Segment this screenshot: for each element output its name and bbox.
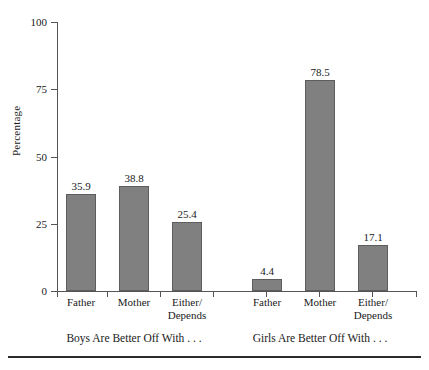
bar-boys-father <box>66 194 96 291</box>
x-label-line2: Depends <box>157 309 217 322</box>
x-label-line1: Father <box>67 296 95 308</box>
bar-value-boys-mother: 38.8 <box>109 172 159 184</box>
y-axis-line <box>57 22 58 292</box>
bar-value-boys-father: 35.9 <box>56 180 106 192</box>
y-tick-label-25: 25 <box>7 219 47 230</box>
y-tick-label-50: 50 <box>7 152 47 163</box>
x-axis-line <box>57 291 417 292</box>
bar-boys-either-depends <box>172 222 202 291</box>
x-label-line1: Either/ <box>172 296 202 308</box>
x-label-girls-father: Father <box>237 296 297 309</box>
x-label-line2: Depends <box>343 309 403 322</box>
x-tick-7 <box>416 292 417 297</box>
x-label-line1: Mother <box>118 296 150 308</box>
bar-girls-mother <box>305 80 335 291</box>
group-caption-boys: Boys Are Better Off With . . . <box>34 331 234 345</box>
x-label-boys-father: Father <box>51 296 111 309</box>
x-label-boys-mother: Mother <box>104 296 164 309</box>
bar-value-girls-either-depends: 17.1 <box>348 231 398 243</box>
y-tick-25 <box>51 224 57 225</box>
x-label-girls-either-depends: Either/ Depends <box>343 296 403 322</box>
y-tick-label-75: 75 <box>7 84 47 95</box>
bottom-divider <box>8 356 421 358</box>
x-label-line1: Father <box>253 296 281 308</box>
bar-chart-figure: Percentage 100 75 50 25 0 35.9 38.8 25.4… <box>0 0 429 370</box>
y-axis-title: Percentage <box>10 36 22 156</box>
bar-girls-father <box>252 279 282 291</box>
y-tick-label-0: 0 <box>7 286 47 297</box>
y-tick-75 <box>51 89 57 90</box>
x-label-line1: Mother <box>304 296 336 308</box>
group-caption-girls: Girls Are Better Off With . . . <box>220 331 420 345</box>
x-label-line1: Either/ <box>358 296 388 308</box>
x-label-boys-either-depends: Either/ Depends <box>157 296 217 322</box>
x-label-girls-mother: Mother <box>290 296 350 309</box>
y-tick-100 <box>51 22 57 23</box>
bar-value-girls-father: 4.4 <box>242 265 292 277</box>
bar-boys-mother <box>119 186 149 291</box>
bar-value-girls-mother: 78.5 <box>295 66 345 78</box>
y-tick-label-100: 100 <box>7 17 47 28</box>
bar-value-boys-either-depends: 25.4 <box>162 208 212 220</box>
y-tick-50 <box>51 157 57 158</box>
bar-girls-either-depends <box>358 245 388 291</box>
